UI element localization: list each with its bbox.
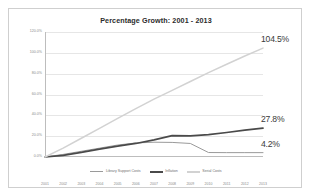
legend-label: Inflation <box>165 170 178 174</box>
y-axis-tick-label: 20.0% <box>16 134 42 138</box>
x-axis-tick-label: 2011 <box>217 183 237 187</box>
chart-title: Percentage Growth: 2001 - 2013 <box>9 16 303 25</box>
x-axis-tick-label: 2001 <box>35 183 55 187</box>
legend-item[interactable]: Library Support Costs <box>90 170 140 174</box>
y-axis-tick-label: 40.0% <box>16 113 42 117</box>
data-value-label: 104.5% <box>261 34 289 44</box>
legend-item[interactable]: Serial Costs <box>187 170 222 174</box>
legend-label: Library Support Costs <box>106 170 141 174</box>
legend-color-swatch <box>187 171 200 173</box>
y-axis-tick-label: 60.0% <box>16 93 42 97</box>
x-axis-tick-label: 2008 <box>162 183 182 187</box>
x-axis-tick-label: 2007 <box>144 183 164 187</box>
data-value-label: 27.8% <box>261 114 284 124</box>
plot-area: 2001200220032004200520062007200820092010… <box>45 32 263 157</box>
x-axis-tick-label: 2013 <box>253 183 273 187</box>
legend-label: Serial Costs <box>202 170 221 174</box>
legend-color-swatch <box>90 171 103 172</box>
legend-item[interactable]: Inflation <box>150 170 178 174</box>
x-axis-tick-label: 2012 <box>235 183 255 187</box>
y-axis-tick-label: 100.0% <box>16 51 42 55</box>
data-value-label: 4.2% <box>261 139 280 149</box>
series-lines <box>45 32 263 157</box>
chart-legend: Library Support CostsInflationSerial Cos… <box>9 170 303 174</box>
x-axis-tick-label: 2005 <box>108 183 128 187</box>
x-axis-tick-label: 2004 <box>90 183 110 187</box>
y-axis-tick-label: 0.0% <box>16 155 42 159</box>
y-axis-tick-label: 120.0% <box>16 30 42 34</box>
x-axis-tick-label: 2010 <box>199 183 219 187</box>
series-line <box>45 142 263 157</box>
x-axis-tick-label: 2009 <box>180 183 200 187</box>
x-axis-tick-label: 2003 <box>71 183 91 187</box>
y-axis-tick-label: 80.0% <box>16 72 42 76</box>
x-axis-tick-label: 2002 <box>53 183 73 187</box>
chart-container: Percentage Growth: 2001 - 2013 0.0%20.0%… <box>8 8 302 188</box>
x-axis-tick-label: 2006 <box>126 183 146 187</box>
legend-color-swatch <box>150 171 163 173</box>
